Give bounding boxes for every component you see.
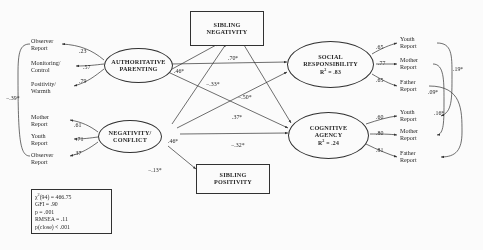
indicator-cognitive-1-line2: Report xyxy=(400,135,418,142)
error-correlation-youth: .19* xyxy=(453,66,463,72)
indicator-social-2-line1: Father xyxy=(400,79,417,86)
authoritative-parenting-label-2: PARENTING xyxy=(111,66,165,73)
path-negconf-to-social: −.50* xyxy=(238,94,252,100)
indicator-negativity-1-line2: Report xyxy=(31,140,48,147)
indicator-social-1: Mother Report xyxy=(400,57,418,71)
path-negconf-to-cognitive: .37* xyxy=(232,114,242,120)
path-sibneg-to-cognitive: −.32* xyxy=(231,142,245,148)
loading-cognitive-1: .80 xyxy=(376,130,383,136)
indicator-social-2-line2: Report xyxy=(400,86,417,93)
fit-chi-square: χ2(94) = 466.75 xyxy=(35,192,108,201)
loading-parenting-0: .23 xyxy=(79,48,86,54)
sibling-positivity-label-2: POSITIVITY xyxy=(214,179,252,186)
fit-p: p = .001 xyxy=(35,209,108,216)
indicator-negativity-0-line2: Report xyxy=(31,121,49,128)
indicator-negativity-1: Youth Report xyxy=(31,133,48,147)
loading-cognitive-0: .60 xyxy=(376,114,383,120)
loading-negativity-2: .37 xyxy=(74,150,81,156)
indicator-parenting-0-line1: Observer xyxy=(31,38,53,45)
path-negconf-to-sibpos: −.13* xyxy=(148,167,162,173)
latent-cognitive-agency: COGNITIVE AGENCY R2 = .24 xyxy=(288,112,369,159)
path-parenting-to-sibneg: .46* xyxy=(174,68,184,74)
indicator-parenting-0-line2: Report xyxy=(31,45,53,52)
indicator-social-2: Father Report xyxy=(400,79,417,93)
negativity-conflict-label-2: CONFLICT xyxy=(109,137,152,144)
latent-authoritative-parenting: AUTHORITATIVE PARENTING xyxy=(104,48,173,83)
sem-diagram: AUTHORITATIVE PARENTING NEGATIVITY/ CONF… xyxy=(0,0,483,250)
loading-social-1: .77 xyxy=(378,60,385,66)
observed-sibling-negativity: SIBLING NEGATIVITY xyxy=(190,11,264,46)
fit-rmsea: RMSEA = .11 xyxy=(35,216,108,223)
error-correlation-father: .16* xyxy=(434,110,444,116)
observed-sibling-positivity: SIBLING POSITIVITY xyxy=(196,164,270,194)
path-parenting-to-cognitive: −.33* xyxy=(206,81,220,87)
indicator-negativity-2-line2: Report xyxy=(31,159,53,166)
indicator-cognitive-0-line2: Report xyxy=(400,116,417,123)
loading-parenting-2: .79 xyxy=(79,78,86,84)
sibling-negativity-label-2: NEGATIVITY xyxy=(207,29,248,36)
indicator-negativity-2-line1: Observer xyxy=(31,152,53,159)
indicator-negativity-2: Observer Report xyxy=(31,152,53,166)
indicator-social-0: Youth Report xyxy=(400,36,417,50)
indicator-negativity-0: Mother Report xyxy=(31,114,49,128)
indicator-social-1-line1: Mother xyxy=(400,57,418,64)
loading-social-2: .65 xyxy=(376,77,383,83)
indicator-cognitive-0-line1: Youth xyxy=(400,109,417,116)
indicator-negativity-0-line1: Mother xyxy=(31,114,49,121)
fit-pclose: p(close) < .001 xyxy=(35,224,108,231)
indicator-cognitive-1-line1: Mother xyxy=(400,128,418,135)
indicator-social-0-line2: Report xyxy=(400,43,417,50)
loading-negativity-0: .61 xyxy=(74,122,81,128)
indicator-parenting-1: Monitoring/ Control xyxy=(31,60,60,74)
social-responsibility-r2: R2 = .83 xyxy=(303,68,358,75)
indicator-cognitive-0: Youth Report xyxy=(400,109,417,123)
fit-gfi: GFI = .90 xyxy=(35,201,108,208)
loading-parenting-1: .57 xyxy=(83,64,90,70)
social-responsibility-label-2: RESPONSIBILITY xyxy=(303,61,358,68)
indicator-cognitive-2-line2: Report xyxy=(400,157,417,164)
cognitive-agency-r2: R2 = .24 xyxy=(310,139,347,146)
indicator-cognitive-2: Father Report xyxy=(400,150,417,164)
loading-cognitive-2: .81 xyxy=(376,147,383,153)
path-negconf-to-sibneg: .46* xyxy=(168,138,178,144)
exogenous-correlation: −.39* xyxy=(6,95,20,101)
latent-social-responsibility: SOCIAL RESPONSIBILITY R2 = .83 xyxy=(287,41,374,88)
indicator-parenting-2: Positivity/ Warmth xyxy=(31,81,56,95)
indicator-cognitive-2-line1: Father xyxy=(400,150,417,157)
indicator-parenting-2-line1: Positivity/ xyxy=(31,81,56,88)
cognitive-agency-label-2: AGENCY xyxy=(310,132,347,139)
latent-negativity-conflict: NEGATIVITY/ CONFLICT xyxy=(98,120,162,153)
path-parenting-to-social: .70* xyxy=(228,55,238,61)
indicator-parenting-0: Observer Report xyxy=(31,38,53,52)
indicator-parenting-2-line2: Warmth xyxy=(31,88,56,95)
loading-social-0: .65 xyxy=(376,44,383,50)
indicator-social-1-line2: Report xyxy=(400,64,418,71)
indicator-parenting-1-line2: Control xyxy=(31,67,60,74)
indicator-social-0-line1: Youth xyxy=(400,36,417,43)
loading-negativity-1: .71 xyxy=(76,136,83,142)
indicator-cognitive-1: Mother Report xyxy=(400,128,418,142)
indicator-parenting-1-line1: Monitoring/ xyxy=(31,60,60,67)
error-correlation-mother: .09* xyxy=(428,89,438,95)
fit-statistics-box: χ2(94) = 466.75 GFI = .90 p = .001 RMSEA… xyxy=(31,189,112,234)
indicator-negativity-1-line1: Youth xyxy=(31,133,48,140)
